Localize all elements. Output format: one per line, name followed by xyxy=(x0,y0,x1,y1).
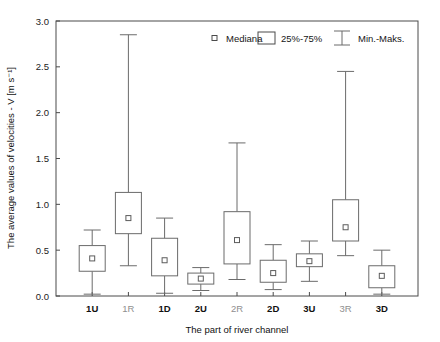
boxplot-1r xyxy=(115,35,141,266)
median-marker xyxy=(126,216,131,221)
quartile-box xyxy=(333,200,359,241)
boxplot-3r xyxy=(333,71,359,255)
median-marker xyxy=(235,238,240,243)
boxplot-3u xyxy=(296,241,322,281)
legend-median-marker xyxy=(212,36,217,41)
boxplot-2u xyxy=(188,268,214,291)
boxplot-1d xyxy=(152,218,178,293)
median-marker xyxy=(271,271,276,276)
quartile-box xyxy=(115,192,141,233)
median-marker xyxy=(198,276,203,281)
median-marker xyxy=(162,258,167,263)
boxplot-3d xyxy=(369,250,395,294)
legend-quartile-box xyxy=(258,32,275,44)
x-axis-ticks xyxy=(92,292,382,296)
box-series xyxy=(79,35,395,294)
median-marker xyxy=(343,225,348,230)
boxplot-figure: The average values of velocities - V [m … xyxy=(0,0,440,342)
boxplot-1u xyxy=(79,230,105,294)
y-axis-ticks xyxy=(56,21,60,296)
chart-legend xyxy=(212,31,350,45)
boxplot-2r xyxy=(224,143,250,280)
median-marker xyxy=(379,273,384,278)
chart-canvas xyxy=(0,0,440,342)
quartile-box xyxy=(152,238,178,276)
median-marker xyxy=(90,256,95,261)
boxplot-2d xyxy=(260,245,286,290)
median-marker xyxy=(307,259,312,264)
